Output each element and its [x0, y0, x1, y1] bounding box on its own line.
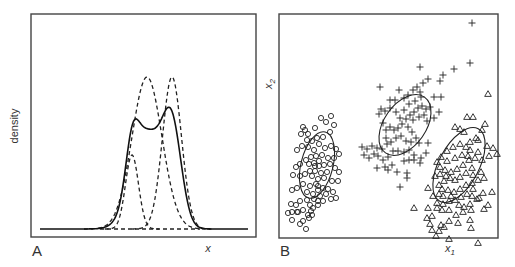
triangle-point	[489, 189, 496, 195]
triangle-point	[457, 186, 464, 192]
plus-point	[403, 116, 410, 123]
triangle-point	[475, 149, 482, 155]
circle-point	[297, 221, 302, 226]
figure: density x A x2 x1 B	[0, 0, 515, 267]
circle-point	[309, 173, 314, 178]
circle-point	[289, 187, 294, 192]
plus-point	[380, 157, 387, 164]
triangle-point	[468, 207, 475, 213]
triangle-point	[446, 207, 453, 213]
circle-point	[313, 153, 318, 158]
circle-point	[325, 155, 330, 160]
circle-point	[318, 170, 323, 175]
circle-point	[324, 169, 329, 174]
circle-point	[312, 168, 317, 173]
triangle-point	[425, 205, 432, 211]
mixture-density-curve	[40, 107, 248, 229]
plus-point	[406, 101, 413, 108]
plus-point	[396, 87, 403, 94]
circle-point	[320, 134, 325, 139]
circle-point	[336, 151, 341, 156]
circle-point	[328, 196, 333, 201]
plus-point	[383, 127, 390, 134]
triangle-point	[452, 155, 459, 161]
circle-point	[318, 115, 323, 120]
circle-point	[320, 198, 325, 203]
triangle-point	[429, 227, 436, 233]
triangle-point	[467, 201, 474, 207]
triangle-point	[463, 182, 470, 188]
triangle-point	[475, 240, 482, 246]
circle-point	[336, 169, 341, 174]
plus-point	[382, 164, 389, 171]
triangle-point	[494, 151, 501, 157]
plus-point	[436, 109, 443, 116]
plus-point	[410, 87, 417, 94]
circle-point	[333, 195, 338, 200]
circle-point	[321, 175, 326, 180]
triangle-point	[485, 91, 492, 97]
circle-point	[307, 202, 312, 207]
circle-point	[293, 202, 298, 207]
triangle-point	[411, 205, 418, 211]
circle-point	[328, 143, 333, 148]
circle-point	[294, 147, 299, 152]
plus-point	[431, 115, 438, 122]
svg-text:x2: x2	[262, 78, 277, 90]
triangle-point	[467, 217, 474, 223]
plus-point	[387, 124, 394, 131]
panel-b-frame	[279, 14, 498, 238]
triangle-point	[453, 212, 460, 218]
triangle-point	[425, 185, 432, 191]
circle-point	[325, 186, 330, 191]
circle-point	[307, 168, 312, 173]
triangle-point	[455, 220, 462, 226]
plus-point	[401, 158, 408, 165]
plus-point	[416, 140, 423, 147]
plus-point	[397, 115, 404, 122]
circle-point	[304, 137, 309, 142]
plus-point	[410, 117, 417, 124]
plus-point	[377, 84, 384, 91]
triangle-point	[482, 121, 489, 127]
triangle-point	[470, 186, 477, 192]
plus-point	[414, 84, 421, 91]
plus-point	[423, 150, 430, 157]
panel-b-ylabel: x2	[262, 78, 277, 90]
panel-b: x2 x1 B	[262, 14, 500, 259]
circle-point	[311, 160, 316, 165]
plus-point	[394, 169, 401, 176]
panel-b-xlabel: x1	[444, 242, 455, 257]
circle-point	[288, 201, 293, 206]
triangle-point	[450, 144, 457, 150]
triangle-point	[459, 152, 466, 158]
cluster-ellipses	[293, 85, 496, 210]
triangle-point	[446, 218, 453, 224]
circle-point	[302, 171, 307, 176]
plus-point	[380, 120, 387, 127]
triangle-point	[448, 193, 455, 199]
circle-point	[311, 147, 316, 152]
triangle-point	[490, 145, 497, 151]
plus-point	[407, 112, 414, 119]
plus-point	[385, 167, 392, 174]
circle-point	[289, 217, 294, 222]
plus-point	[383, 135, 390, 142]
plus-point	[389, 162, 396, 169]
triangle-point	[429, 213, 436, 219]
plus-point	[395, 148, 402, 155]
plus-point	[431, 94, 438, 101]
circle-point	[322, 145, 327, 150]
circle-point	[323, 119, 328, 124]
plus-point	[438, 94, 445, 101]
circle-point	[331, 122, 336, 127]
triangle-point	[470, 172, 477, 178]
component-curve-1	[105, 155, 160, 229]
triangle-point	[464, 114, 471, 120]
circle-point	[316, 141, 321, 146]
plus-point	[397, 184, 404, 191]
plus-point	[440, 72, 447, 79]
circle-point	[327, 129, 332, 134]
panel-a-frame	[31, 14, 256, 237]
circle-point	[304, 189, 309, 194]
